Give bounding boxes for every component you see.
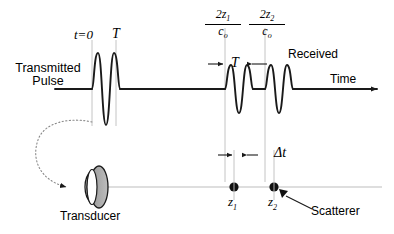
- fraction-z2-numerator: 2z2: [249, 8, 285, 23]
- period-mid-label: T: [231, 56, 239, 71]
- z2-label: z2: [268, 195, 277, 212]
- transducer-label: Transducer: [60, 210, 120, 223]
- fraction-z2-denominator: co: [249, 25, 285, 40]
- z1-label: z1: [228, 195, 237, 212]
- diagram-canvas: [0, 0, 394, 234]
- transmitted-label-line1: Transmitted: [15, 61, 81, 75]
- fraction-z1-numerator: 2z1: [205, 8, 241, 23]
- transmitted-label-line2: Pulse: [32, 74, 63, 88]
- round-trip-time-z1-fraction: 2z1 co: [205, 8, 241, 41]
- received-label: Received: [288, 48, 338, 61]
- scatterer-callout: [279, 189, 312, 209]
- transducer-disk: [85, 166, 108, 208]
- depth-guide-ticks: [234, 150, 274, 200]
- pulse-to-transducer-curve: [36, 120, 92, 187]
- fraction-z1-denominator: co: [205, 25, 241, 40]
- t-zero-label: t=0: [74, 28, 93, 42]
- period-top-label: T: [112, 27, 120, 42]
- scatterer-label: Scatterer: [311, 205, 360, 218]
- delta-t-label: Δt: [274, 146, 286, 161]
- time-axis-label: Time: [330, 73, 356, 86]
- round-trip-time-z2-fraction: 2z2 co: [249, 8, 285, 41]
- guide-lines: [92, 28, 265, 182]
- transmitted-pulse-label: Transmitted Pulse: [6, 62, 90, 88]
- pulse-echo-diagram: Transmitted Pulse t=0 T 2z1 co 2z2 co T …: [0, 0, 394, 234]
